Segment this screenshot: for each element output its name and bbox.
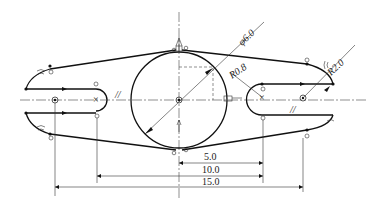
arrow-icon bbox=[299, 185, 303, 189]
bottom-right-tangent-line bbox=[182, 130, 307, 150]
point bbox=[24, 111, 27, 114]
point bbox=[260, 82, 263, 85]
arrow-icon bbox=[97, 174, 101, 178]
radius-small-label: R0.8 bbox=[226, 61, 248, 81]
arrow-icon bbox=[55, 185, 59, 189]
arrow-icon bbox=[259, 161, 263, 165]
vertical-constraint-icon bbox=[177, 120, 181, 132]
dimension-label-5: 5.0 bbox=[204, 151, 217, 162]
point bbox=[48, 64, 51, 67]
arrow-icon bbox=[179, 161, 183, 165]
left-center-dot bbox=[54, 99, 56, 101]
dimension-label-15: 15.0 bbox=[202, 176, 220, 187]
left-outer-bottom-arc bbox=[26, 113, 50, 134]
left-outer-top-arc bbox=[26, 69, 50, 89]
point bbox=[305, 128, 308, 131]
diameter-label: φ6.0 bbox=[236, 27, 257, 47]
arrow-icon bbox=[145, 127, 153, 134]
parallel-constraint-icon: // bbox=[289, 104, 297, 115]
dimension-label-10: 10.0 bbox=[202, 164, 220, 175]
point bbox=[305, 62, 308, 65]
sketch-drawing: × × // // bbox=[0, 0, 379, 214]
cross-mark-icon: × bbox=[259, 92, 265, 103]
arrow-icon bbox=[62, 87, 67, 91]
vertical-constraint-icon bbox=[176, 38, 182, 52]
arrow-icon bbox=[259, 174, 263, 178]
arrow-icon bbox=[324, 86, 330, 92]
top-left-tangent-line bbox=[50, 50, 176, 69]
point bbox=[331, 82, 334, 85]
right-outer-bottom-arc bbox=[307, 115, 333, 130]
parallel-constraint-icon: // bbox=[114, 89, 122, 100]
arrow-icon bbox=[62, 111, 67, 115]
cross-mark-icon: × bbox=[93, 94, 99, 105]
point bbox=[48, 132, 51, 135]
arrow-icon bbox=[300, 82, 305, 86]
point bbox=[24, 87, 27, 90]
